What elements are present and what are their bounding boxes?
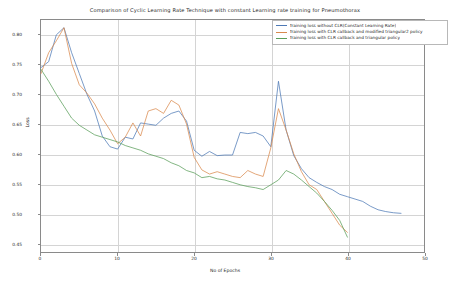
- y-tick-label-1: 0.50: [0, 212, 22, 217]
- x-tick-label-1: 10: [114, 256, 120, 261]
- y-tick-label-5: 0.70: [0, 92, 22, 97]
- x-tick-label-0: 0: [39, 256, 42, 261]
- legend-swatch-0: [276, 25, 287, 26]
- x-tick-mark-0: [40, 253, 41, 256]
- x-axis-label: No of Epochs: [0, 268, 450, 273]
- x-tick-mark-2: [194, 253, 195, 256]
- y-tick-label-2: 0.55: [0, 182, 22, 187]
- y-tick-label-4: 0.65: [0, 122, 22, 127]
- y-tick-label-7: 0.80: [0, 32, 22, 37]
- chart-figure: Comparison of Cyclic Learning Rate Techn…: [0, 0, 450, 287]
- y-tick-label-6: 0.75: [0, 62, 22, 67]
- y-tick-label-3: 0.60: [0, 152, 22, 157]
- legend-swatch-2: [276, 38, 287, 39]
- y-tick-label-0: 0.45: [0, 242, 22, 247]
- series-lines: [41, 20, 424, 252]
- legend-label-2: Training loss with CLR callback and tria…: [290, 35, 400, 41]
- series-line-0: [41, 28, 401, 214]
- x-tick-mark-4: [348, 253, 349, 256]
- plot-area: [40, 19, 425, 253]
- x-tick-mark-5: [425, 253, 426, 256]
- legend-swatch-1: [276, 32, 287, 33]
- x-tick-mark-3: [271, 253, 272, 256]
- x-tick-label-3: 30: [268, 256, 274, 261]
- chart-legend: Training loss without CLR(Constant Learn…: [272, 20, 448, 46]
- x-tick-mark-1: [117, 253, 118, 256]
- y-axis-label: Loss: [25, 93, 30, 153]
- x-tick-label-5: 50: [422, 256, 428, 261]
- x-tick-label-4: 40: [345, 256, 351, 261]
- x-tick-label-2: 20: [191, 256, 197, 261]
- chart-title: Comparison of Cyclic Learning Rate Techn…: [0, 7, 450, 13]
- legend-item-2[interactable]: Training loss with CLR callback and tria…: [276, 35, 445, 41]
